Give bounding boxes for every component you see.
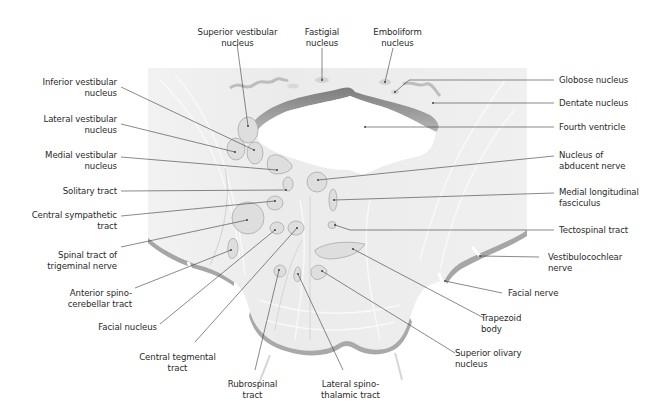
label-globose-nucleus: Globose nucleus [559,75,628,86]
label-central-tegmental-tract: Central tegmental tract [135,352,220,374]
label-emboliform-nucleus: Emboliform nucleus [370,27,425,49]
label-solitary-tract: Solitary tract [10,186,117,197]
label-spinal-tract-of-trigeminal-nerve: Spinal tract of trigeminal nerve [10,250,117,272]
label-vestibulocochlear-nerve: Vestibulocochlear nerve [548,252,622,274]
label-inferior-vestibular-nucleus: Inferior vestibular nucleus [10,77,117,99]
label-central-sympathetic-tract: Central sympathetic tract [10,210,117,232]
label-lateral-spinothalamic-tract: Lateral spino- thalamic tract [313,379,388,401]
label-fourth-ventricle: Fourth ventricle [559,122,625,133]
label-nucleus-of-abducent-nerve: Nucleus of abducent nerve [559,150,625,172]
label-medial-vestibular-nucleus: Medial vestibular nucleus [10,150,117,172]
label-lateral-vestibular-nucleus: Lateral vestibular nucleus [10,114,117,136]
central-sympathetic-tract-shape [267,196,283,210]
label-superior-vestibular-nucleus: Superior vestibular nucleus [190,27,285,49]
label-fastigial-nucleus: Fastigial nucleus [297,27,347,49]
rubrospinal-tract-shape [274,265,286,277]
central-tegmental-tract-shape [288,221,304,235]
spinal-trigeminal-tract-shape [232,202,264,234]
label-facial-nucleus: Facial nucleus [50,322,157,333]
solitary-tract-shape [283,177,293,191]
label-facial-nerve: Facial nerve [508,288,558,299]
label-anterior-spinocerebellar-tract: Anterior spino- cerebellar tract [25,288,132,310]
lateral-vestibular-nucleus-shape [247,142,263,164]
superior-vestibular-nucleus-shape [238,117,258,143]
label-rubrospinal-tract: Rubrospinal tract [220,379,285,401]
anterior-spinocerebellar-tract-shape [228,238,238,258]
label-tectospinal-tract: Tectospinal tract [559,225,628,236]
label-medial-longitudinal-fasciculus: Medial longitudinal fasciculus [559,187,639,209]
label-superior-olivary-nucleus: Superior olivary nucleus [455,348,522,370]
label-trapezoid-body: Trapezoid body [481,313,521,335]
label-dentate-nucleus: Dentate nucleus [559,98,628,109]
abducent-nucleus-shape [307,172,327,192]
